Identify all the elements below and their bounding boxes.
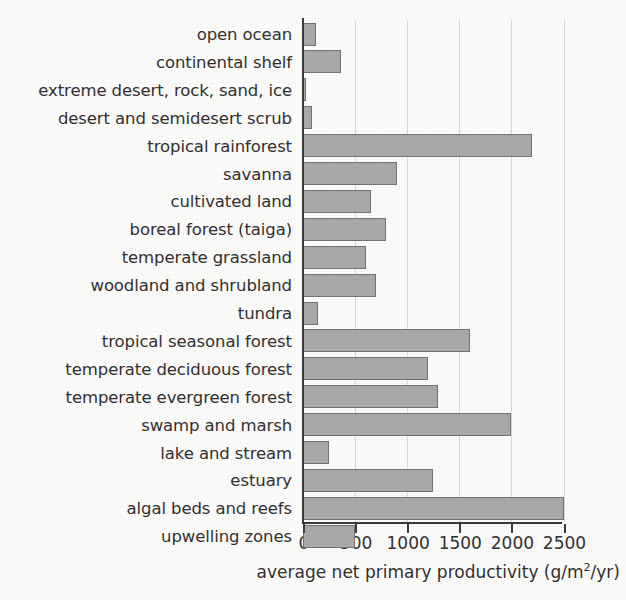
gridline [564, 20, 565, 522]
gridline [511, 20, 512, 522]
x-axis-tick-label: 1000 [387, 533, 430, 553]
bar [303, 246, 366, 269]
bar [303, 441, 329, 464]
category-label: lake and stream [0, 440, 292, 468]
category-label: tropical seasonal forest [0, 328, 292, 356]
x-axis-tick [564, 524, 566, 533]
category-label: desert and semidesert scrub [0, 105, 292, 133]
category-label: continental shelf [0, 49, 292, 77]
plot-area [303, 20, 603, 522]
y-axis-line [302, 18, 304, 524]
bar [303, 497, 564, 520]
category-label: temperate grassland [0, 244, 292, 272]
bar [303, 302, 318, 325]
x-axis-title-exponent: 2 [584, 561, 591, 574]
x-axis-tick [407, 524, 409, 533]
x-axis-title: average net primary productivity (g/m2/y… [0, 562, 620, 582]
x-axis-tick-label: 1500 [439, 533, 482, 553]
bar [303, 218, 386, 241]
x-axis-line [302, 522, 562, 524]
category-label: boreal forest (taiga) [0, 216, 292, 244]
bar [303, 106, 312, 129]
gridline [459, 20, 460, 522]
category-label: savanna [0, 161, 292, 189]
x-axis-tick [303, 524, 305, 533]
x-axis-tick-label: 2000 [491, 533, 534, 553]
category-label: woodland and shrubland [0, 272, 292, 300]
category-label: estuary [0, 467, 292, 495]
x-axis-tick [511, 524, 513, 533]
bar [303, 413, 511, 436]
bar [303, 50, 341, 73]
category-axis-labels: open oceancontinental shelfextreme deser… [0, 20, 292, 522]
bar [303, 274, 376, 297]
bar-chart: open oceancontinental shelfextreme deser… [0, 0, 626, 600]
gridline [407, 20, 408, 522]
bar [303, 134, 532, 157]
category-label: algal beds and reefs [0, 495, 292, 523]
x-axis-tick [355, 524, 357, 533]
bar [303, 525, 355, 548]
category-label: upwelling zones [0, 523, 292, 551]
category-label: temperate evergreen forest [0, 384, 292, 412]
bar [303, 162, 397, 185]
category-label: cultivated land [0, 188, 292, 216]
bar [303, 469, 433, 492]
bar [303, 23, 316, 46]
bar [303, 190, 371, 213]
x-axis-tick-label: 2500 [543, 533, 586, 553]
bar [303, 357, 428, 380]
bar [303, 385, 438, 408]
category-label: extreme desert, rock, sand, ice [0, 77, 292, 105]
gridline [355, 20, 356, 522]
category-label: open ocean [0, 21, 292, 49]
bar [303, 329, 470, 352]
x-axis-tick [459, 524, 461, 533]
category-label: swamp and marsh [0, 412, 292, 440]
category-label: temperate deciduous forest [0, 356, 292, 384]
category-label: tropical rainforest [0, 133, 292, 161]
category-label: tundra [0, 300, 292, 328]
